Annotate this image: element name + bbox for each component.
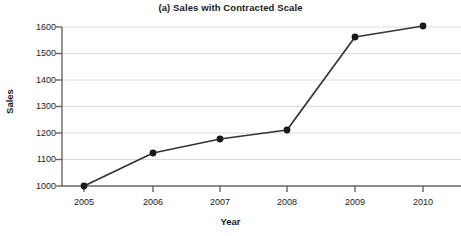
data-point[interactable] xyxy=(420,23,427,30)
data-point[interactable] xyxy=(217,136,224,143)
data-point[interactable] xyxy=(150,150,157,157)
chart-figure: (a) Sales with Contracted Scale Sales Ye… xyxy=(0,0,461,236)
data-point[interactable] xyxy=(81,183,88,190)
data-point[interactable] xyxy=(352,34,359,41)
plot-area xyxy=(0,0,461,236)
data-point[interactable] xyxy=(284,127,291,134)
grid-lines xyxy=(62,27,461,160)
x-axis-ticks xyxy=(84,186,423,192)
y-axis-ticks xyxy=(56,27,62,186)
